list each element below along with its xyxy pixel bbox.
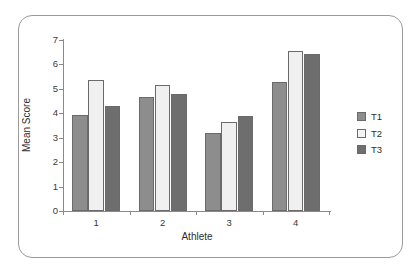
y-tick-label: 3 (53, 133, 58, 143)
chart-figure: 01234567 1234 Mean Score Athlete T1T2T3 (0, 0, 418, 274)
x-tick-label: 4 (293, 218, 298, 228)
x-tick-label: 3 (227, 218, 232, 228)
bar (155, 85, 171, 211)
y-tick-mark (59, 138, 63, 139)
bar-group (272, 40, 320, 211)
y-tick-label: 2 (53, 157, 58, 167)
x-axis-line (63, 211, 331, 212)
y-tick-mark (59, 113, 63, 114)
bar (139, 97, 155, 211)
legend-label: T3 (371, 145, 382, 155)
bar-group (205, 40, 253, 211)
legend-swatch-icon (357, 112, 366, 121)
y-tick-label: 6 (53, 60, 58, 70)
bar (105, 106, 121, 211)
bar (288, 51, 304, 211)
legend-label: T1 (371, 112, 382, 122)
bar (88, 80, 104, 211)
x-tick-mark (263, 211, 264, 215)
bar (238, 116, 254, 211)
legend-item-t1[interactable]: T1 (357, 112, 382, 122)
bar (272, 82, 288, 211)
y-tick-mark (59, 64, 63, 65)
x-tick-mark (329, 211, 330, 215)
bar (171, 94, 187, 211)
chart-legend: T1T2T3 (357, 112, 382, 155)
x-axis-title: Athlete (181, 231, 212, 242)
legend-item-t3[interactable]: T3 (357, 145, 382, 155)
y-tick-mark (59, 40, 63, 41)
x-tick-label: 2 (160, 218, 165, 228)
bar (221, 122, 237, 211)
x-tick-label: 1 (94, 218, 99, 228)
bar-group (72, 40, 120, 211)
y-axis-title: Mean Score (21, 98, 32, 152)
bar (72, 115, 88, 211)
legend-label: T2 (371, 129, 382, 139)
bar (205, 133, 221, 211)
y-tick-mark (59, 89, 63, 90)
y-tick-mark (59, 187, 63, 188)
y-tick-label: 1 (53, 182, 58, 192)
x-tick-mark (130, 211, 131, 215)
x-tick-mark (63, 211, 64, 215)
y-tick-mark (59, 162, 63, 163)
bar-group (139, 40, 187, 211)
legend-item-t2[interactable]: T2 (357, 129, 382, 139)
bar (304, 54, 320, 211)
y-tick-label: 4 (53, 109, 58, 119)
y-tick-label: 0 (53, 206, 58, 216)
plot-area: 01234567 1234 (63, 40, 329, 211)
legend-swatch-icon (357, 145, 366, 154)
y-tick-label: 5 (53, 84, 58, 94)
y-tick-label: 7 (53, 35, 58, 45)
x-tick-mark (196, 211, 197, 215)
legend-swatch-icon (357, 129, 366, 138)
